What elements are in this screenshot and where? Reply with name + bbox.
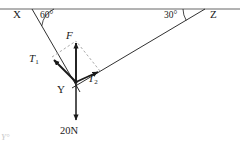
label-point-z: Z — [210, 9, 217, 20]
force-diagram-svg — [0, 0, 240, 147]
label-tension-2: T2 — [88, 73, 98, 86]
label-weight-20n: 20N — [60, 126, 78, 137]
dashed-construction-right — [76, 41, 100, 71]
vector-tension-1 — [54, 60, 76, 82]
figure-canvas: X 60° 30° Z F T1 T2 Y 20N Y° — [0, 0, 240, 147]
label-force-f: F — [66, 30, 73, 41]
label-angle-30: 30° — [164, 11, 177, 21]
label-tension-2-subscript: 2 — [94, 78, 98, 86]
label-tension-1-subscript: 1 — [35, 58, 39, 66]
label-tension-1: T1 — [29, 53, 39, 66]
label-angle-60: 60° — [40, 11, 53, 21]
label-point-x: X — [13, 9, 21, 20]
corner-artifact-text: Y° — [1, 133, 10, 142]
label-point-y: Y — [57, 84, 65, 95]
angle-arc-30 — [183, 9, 186, 20]
junction-point-y — [74, 80, 77, 83]
